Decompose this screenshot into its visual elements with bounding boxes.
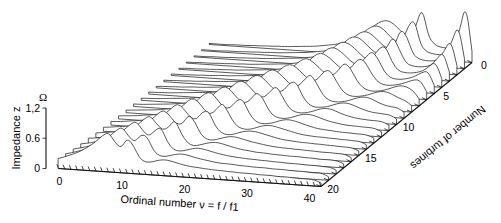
- x-axis-tick-label: 30: [241, 187, 253, 199]
- x-axis-title: Ordinal number ν = f / f1: [120, 193, 239, 213]
- x-axis-tick-label: 0: [57, 175, 63, 187]
- depth-axis-tick-label: 0: [481, 59, 487, 71]
- z-axis-tick-label: 0.6: [25, 132, 40, 144]
- depth-axis-tick-label: 5: [443, 90, 449, 102]
- z-axis-title: Impedance z: [10, 107, 22, 170]
- depth-axis-title: Number of turbines: [408, 103, 488, 172]
- depth-axis-tick-label: 20: [327, 183, 339, 195]
- x-axis-tick-label: 40: [304, 192, 316, 204]
- x-axis-tick-label: 10: [116, 179, 128, 191]
- depth-axis-tick-label: 15: [365, 152, 377, 164]
- waterfall-chart-figure: 00.61,2ΩImpedance z010203040Ordinal numb…: [0, 0, 501, 223]
- z-axis-tick-label: 1,2: [25, 102, 40, 114]
- waterfall-surface: [59, 12, 473, 187]
- z-axis-tick-label: 0: [34, 162, 40, 174]
- x-axis-tick-label: 20: [179, 183, 191, 195]
- depth-axis-tick-label: 10: [403, 121, 415, 133]
- plot-canvas: 00.61,2ΩImpedance z010203040Ordinal numb…: [0, 0, 501, 223]
- z-axis-unit: Ω: [39, 91, 47, 103]
